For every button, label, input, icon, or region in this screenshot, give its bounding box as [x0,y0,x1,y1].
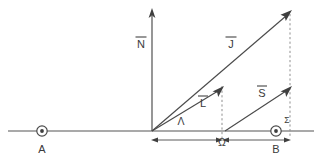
point-marker-a[interactable] [37,126,47,136]
measurement-omega-span [151,138,223,143]
label-vector-j-text: J [228,38,234,50]
vector-j-shaft [152,16,286,131]
label-vector-n: N [136,37,147,50]
label-omega: Ω [218,136,226,148]
measurement-b-arrow-right [284,138,291,143]
vector-j [152,10,292,131]
vector-diagram-canvas: N J L S A B Λ Ω Σ [0,0,321,162]
label-point-b: B [272,143,279,155]
measurement-omega-arrow-left [151,138,158,143]
label-vector-l-text: L [200,97,206,109]
vector-l [152,86,224,131]
label-vector-n-text: N [137,38,145,50]
label-vector-s-text: S [258,87,265,99]
point-marker-b[interactable] [271,126,281,136]
physics-diagram-svg: N J L S A B Λ Ω Σ [0,0,321,162]
vector-n [149,8,156,131]
vector-l-shaft [152,91,218,131]
point-b-dot [274,129,278,133]
measurement-b-span [222,138,291,143]
vector-s-arrowhead [281,86,293,97]
point-a-dot [40,129,44,133]
label-vector-s: S [257,86,267,99]
label-vector-j: J [226,37,237,50]
vector-s-shaft [225,91,286,131]
label-sigma: Σ [284,115,289,125]
label-point-a: A [38,143,46,155]
label-lambda: Λ [177,115,184,127]
